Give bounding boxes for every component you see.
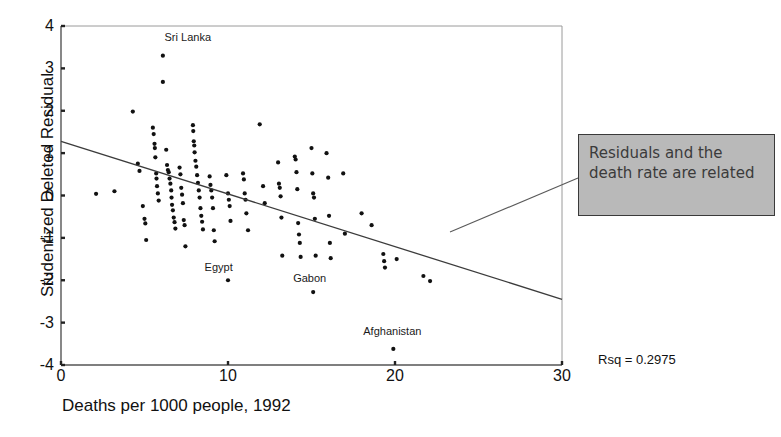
data-point bbox=[327, 214, 331, 218]
data-point bbox=[179, 186, 183, 190]
y-tick-label: -2 bbox=[20, 271, 54, 289]
data-point bbox=[112, 189, 116, 193]
data-point bbox=[370, 223, 374, 227]
data-point bbox=[152, 142, 156, 146]
data-point bbox=[198, 196, 202, 200]
data-point bbox=[200, 220, 204, 224]
data-point bbox=[382, 259, 386, 263]
data-point bbox=[324, 151, 328, 155]
callout-text: Residuals and the death rate are related bbox=[589, 143, 768, 183]
data-point bbox=[142, 217, 146, 221]
data-point bbox=[208, 183, 212, 187]
data-point bbox=[258, 122, 262, 126]
data-point bbox=[194, 165, 198, 169]
data-point bbox=[169, 188, 173, 192]
data-point bbox=[193, 159, 197, 163]
data-point bbox=[143, 221, 147, 225]
data-point bbox=[208, 174, 212, 178]
data-point bbox=[152, 132, 156, 136]
data-point bbox=[198, 206, 202, 210]
data-point bbox=[157, 198, 161, 202]
data-point bbox=[171, 208, 175, 212]
data-point bbox=[279, 194, 283, 198]
y-tick-label: -1 bbox=[20, 229, 54, 247]
y-tick-label: 2 bbox=[20, 102, 54, 120]
data-point bbox=[191, 129, 195, 133]
callout-box: Residuals and the death rate are related bbox=[578, 134, 775, 216]
data-point bbox=[199, 214, 203, 218]
data-point bbox=[94, 192, 98, 196]
data-point bbox=[180, 193, 184, 197]
data-point bbox=[172, 220, 176, 224]
data-point bbox=[276, 160, 280, 164]
axes-group bbox=[61, 26, 562, 365]
data-point bbox=[277, 182, 281, 186]
data-point bbox=[309, 146, 313, 150]
tick-marks-group bbox=[61, 26, 562, 365]
data-point bbox=[246, 228, 250, 232]
data-point bbox=[280, 254, 284, 258]
data-point bbox=[212, 228, 216, 232]
data-point bbox=[169, 196, 173, 200]
data-point bbox=[391, 347, 395, 351]
data-point bbox=[131, 110, 135, 114]
data-point bbox=[164, 148, 168, 152]
data-point bbox=[156, 191, 160, 195]
data-point bbox=[177, 165, 181, 169]
data-point bbox=[153, 146, 157, 150]
data-point bbox=[213, 239, 217, 243]
data-point bbox=[161, 54, 165, 58]
data-point bbox=[310, 171, 314, 175]
data-point bbox=[343, 232, 347, 236]
data-point bbox=[242, 177, 246, 181]
data-point bbox=[178, 172, 182, 176]
data-point bbox=[360, 211, 364, 215]
data-point bbox=[243, 191, 247, 195]
data-point bbox=[182, 218, 186, 222]
data-point bbox=[298, 241, 302, 245]
data-point bbox=[226, 278, 230, 282]
data-point bbox=[167, 170, 171, 174]
data-point bbox=[381, 252, 385, 256]
data-point bbox=[192, 139, 196, 143]
data-point bbox=[144, 238, 148, 242]
x-tick-label: 0 bbox=[41, 367, 81, 385]
x-tick-label: 30 bbox=[542, 367, 582, 385]
data-point bbox=[191, 123, 195, 127]
data-point bbox=[211, 206, 215, 210]
data-point bbox=[295, 187, 299, 191]
data-point bbox=[154, 176, 158, 180]
point-annotation-label: Afghanistan bbox=[363, 325, 421, 337]
data-point bbox=[421, 274, 425, 278]
data-point bbox=[182, 223, 186, 227]
data-point bbox=[383, 265, 387, 269]
data-point bbox=[294, 170, 298, 174]
data-point bbox=[167, 176, 171, 180]
y-tick-label: 4 bbox=[20, 17, 54, 35]
data-point bbox=[297, 232, 301, 236]
data-point bbox=[153, 155, 157, 159]
data-point bbox=[155, 184, 159, 188]
data-point bbox=[329, 256, 333, 260]
data-point bbox=[192, 143, 196, 147]
data-point bbox=[294, 157, 298, 161]
data-point bbox=[181, 201, 185, 205]
data-point bbox=[326, 176, 330, 180]
data-point bbox=[312, 196, 316, 200]
data-point bbox=[314, 254, 318, 258]
x-tick-label: 20 bbox=[375, 367, 415, 385]
data-point bbox=[261, 184, 265, 188]
data-point bbox=[228, 204, 232, 208]
data-point bbox=[197, 188, 201, 192]
scatter-plot-figure: Studentized Deleted Residual Deaths per … bbox=[0, 0, 781, 437]
data-point bbox=[161, 80, 165, 84]
data-point bbox=[279, 215, 283, 219]
data-point bbox=[168, 182, 172, 186]
y-tick-label: 1 bbox=[20, 144, 54, 162]
data-point bbox=[173, 226, 177, 230]
data-point bbox=[193, 150, 197, 154]
data-point bbox=[428, 279, 432, 283]
point-annotation-label: Egypt bbox=[205, 261, 233, 273]
data-point bbox=[241, 171, 245, 175]
x-tick-label: 10 bbox=[208, 367, 248, 385]
